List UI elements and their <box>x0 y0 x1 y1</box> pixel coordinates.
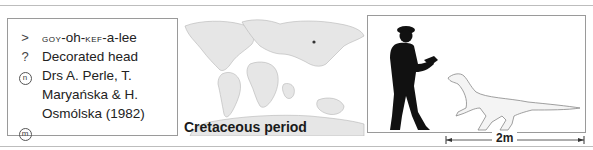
fossil-site-marker <box>312 40 315 43</box>
dinosaur-silhouette-icon <box>448 74 580 130</box>
fact-box: > goy-oh-kef-a-lee ? Decorated head n Dr… <box>7 18 178 136</box>
world-map <box>180 14 368 136</box>
named-by-line-3: Osmólska (1982) <box>42 106 145 122</box>
named-by-row: n Drs A. Perle, T. Maryańska & H. Osmóls… <box>8 68 145 122</box>
named-by-icon: n <box>19 72 32 85</box>
museum-row: m <box>8 124 42 141</box>
named-by-line-1: Drs A. Perle, T. <box>42 68 145 87</box>
bottom-rule <box>0 146 593 147</box>
meaning-icon: ? <box>8 49 42 65</box>
pronunciation-row: > goy-oh-kef-a-lee <box>8 30 137 46</box>
scale-comparison-box <box>367 15 586 133</box>
human-silhouette-icon <box>390 26 438 130</box>
meaning-row: ? Decorated head <box>8 49 138 65</box>
meaning-text: Decorated head <box>42 49 138 65</box>
pronunciation-icon: > <box>8 30 42 46</box>
scale-illustration <box>368 16 587 134</box>
museum-icon: m <box>19 128 32 141</box>
top-rule <box>0 5 593 6</box>
pronunciation-text: goy-oh-kef-a-lee <box>42 30 137 46</box>
named-by-line-2: Maryańska & H. <box>42 87 145 106</box>
period-label: Cretaceous period <box>184 119 307 135</box>
scale-label: 2m <box>492 131 517 145</box>
